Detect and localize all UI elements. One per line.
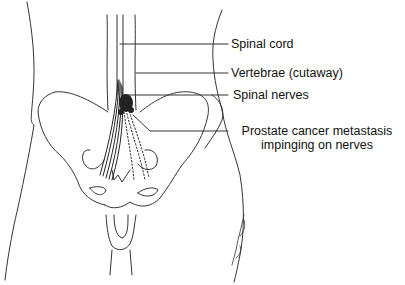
penis-inner bbox=[114, 215, 128, 238]
left-body-outline bbox=[5, 2, 34, 280]
left-ilium bbox=[38, 92, 108, 205]
label-metastasis-line2: impinging on nerves bbox=[232, 138, 402, 152]
right-pelvic-inlet bbox=[138, 150, 157, 170]
left-pelvic-inlet bbox=[83, 150, 104, 169]
vertebra-left-edge bbox=[107, 15, 108, 110]
label-vertebrae: Vertebrae (cutaway) bbox=[231, 66, 343, 80]
pubis bbox=[105, 198, 160, 208]
thigh-lines bbox=[110, 250, 132, 275]
penis-outline bbox=[106, 215, 136, 250]
label-metastasis-line1: Prostate cancer metastasis bbox=[232, 124, 402, 138]
metastasis-mass bbox=[118, 94, 134, 115]
label-metastasis: Prostate cancer metastasis impinging on … bbox=[232, 124, 402, 152]
spinal-nerves-bundle bbox=[100, 80, 123, 180]
left-obturator bbox=[90, 187, 106, 195]
leader-metastasis bbox=[133, 115, 228, 131]
vertebra-right-edge bbox=[135, 15, 136, 110]
label-spinal-nerves: Spinal nerves bbox=[233, 88, 309, 102]
right-obturator bbox=[138, 188, 158, 196]
right-ilium bbox=[140, 92, 208, 198]
label-spinal-cord: Spinal cord bbox=[231, 37, 294, 51]
